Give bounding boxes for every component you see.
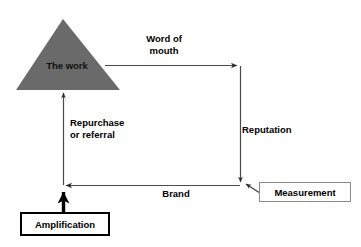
measurement-box-label: Measurement bbox=[274, 187, 335, 198]
repurchase-label-line2: or referral bbox=[70, 129, 115, 140]
repurchase-label-line1: Repurchase bbox=[70, 117, 124, 128]
amplification-box[interactable]: Amplification bbox=[20, 212, 110, 236]
brand-label: Brand bbox=[150, 188, 202, 200]
measurement-box[interactable]: Measurement bbox=[259, 182, 351, 202]
diagram-canvas: The work Word ofmouth Repurchaseor refer… bbox=[0, 0, 361, 247]
reputation-label: Reputation bbox=[242, 124, 314, 136]
repurchase-or-referral-label: Repurchaseor referral bbox=[70, 117, 150, 140]
word-of-mouth-label-line2: mouth bbox=[149, 45, 178, 56]
amplification-box-label: Amplification bbox=[35, 219, 95, 230]
word-of-mouth-label: Word ofmouth bbox=[126, 33, 202, 56]
word-of-mouth-label-line1: Word of bbox=[146, 33, 182, 44]
the-work-label: The work bbox=[26, 60, 108, 72]
the-work-triangle bbox=[16, 19, 120, 90]
measurement-leader-line bbox=[246, 184, 259, 193]
